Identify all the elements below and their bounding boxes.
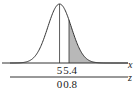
z-tick-label-zero: 0 xyxy=(57,78,63,90)
z-tick-label-cutoff: 0.8 xyxy=(63,78,77,90)
x-axis-label: x xyxy=(127,59,133,70)
x-tick-label-mean: 5 xyxy=(57,64,63,76)
z-axis-label: z xyxy=(127,72,132,83)
normal-distribution-figure: 5 5.4 x 0 0.8 z xyxy=(0,0,138,91)
x-tick-label-cutoff: 5.4 xyxy=(63,64,77,76)
shaded-tail-area xyxy=(69,20,128,63)
